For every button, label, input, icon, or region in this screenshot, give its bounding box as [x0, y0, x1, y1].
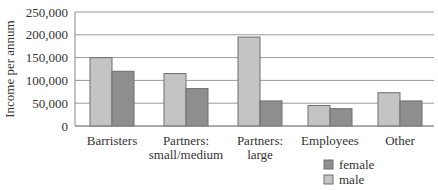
y-tick-label: 250,000: [26, 5, 68, 20]
legend-label-male: male: [339, 172, 364, 187]
y-tick-label: 50,000: [32, 96, 68, 111]
bar-chart: 050,000100,000150,000200,000250,000 Inco…: [0, 0, 438, 190]
bar-female: [112, 71, 134, 126]
bar-female: [400, 101, 422, 126]
legend-swatch-female: [324, 160, 333, 169]
bar-male: [238, 37, 260, 126]
bar-male: [90, 58, 112, 126]
bar-female: [186, 89, 208, 126]
bar-male: [164, 74, 186, 126]
y-tick-label: 150,000: [26, 50, 68, 65]
x-category-label: Other: [385, 133, 415, 148]
y-axis-ticks: 050,000100,000150,000200,000250,000: [26, 5, 68, 134]
x-category-label: Partners:: [237, 133, 283, 148]
y-tick-label: 100,000: [26, 73, 68, 88]
legend-label-female: female: [339, 157, 375, 172]
bar-male: [308, 105, 330, 126]
legend-swatch-male: [324, 175, 333, 184]
bar-male: [378, 93, 400, 126]
bar-female: [330, 109, 352, 126]
x-category-label: Partners:: [163, 133, 209, 148]
x-category-label: Employees: [301, 133, 359, 148]
bar-female: [260, 101, 282, 126]
x-category-label: small/medium: [149, 147, 223, 162]
x-category-label: Barristers: [87, 133, 138, 148]
y-axis-label: Income per annum: [2, 20, 17, 117]
y-tick-label: 0: [62, 119, 69, 134]
x-category-label: large: [247, 147, 273, 162]
bars: [90, 37, 422, 126]
y-tick-label: 200,000: [26, 27, 68, 42]
legend: femalemale: [324, 157, 375, 187]
